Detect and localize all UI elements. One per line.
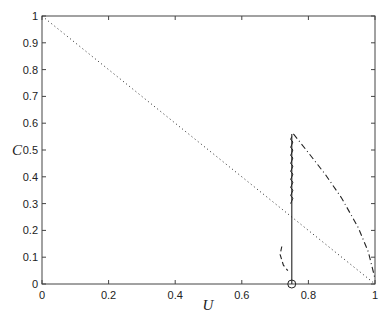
x-tick-label: 0.6 bbox=[234, 289, 249, 301]
y-axis-label: C bbox=[12, 142, 23, 158]
y-tick-label: 0.2 bbox=[23, 224, 38, 236]
y-tick-label: 0.6 bbox=[23, 117, 38, 129]
x-tick-label: 0 bbox=[39, 289, 45, 301]
series-dash-dot-curve bbox=[293, 134, 375, 279]
x-axis-label: U bbox=[203, 297, 215, 313]
y-tick-label: 0.4 bbox=[23, 171, 38, 183]
x-tick-label: 1 bbox=[372, 289, 378, 301]
series-diagonal bbox=[42, 16, 375, 284]
y-axis-ticks: 00.10.20.30.40.50.60.70.80.91 bbox=[23, 10, 375, 290]
series-short-dashed-curve bbox=[280, 247, 288, 271]
y-tick-label: 0.1 bbox=[23, 251, 38, 263]
x-tick-label: 0.8 bbox=[301, 289, 316, 301]
y-tick-label: 0.3 bbox=[23, 198, 38, 210]
y-tick-label: 0 bbox=[32, 278, 38, 290]
x-axis-ticks: 00.20.40.60.81 bbox=[39, 16, 378, 301]
y-tick-label: 1 bbox=[32, 10, 38, 22]
y-tick-label: 0.7 bbox=[23, 90, 38, 102]
chart: 00.20.40.60.81 00.10.20.30.40.50.60.70.8… bbox=[0, 0, 388, 322]
series-layer bbox=[42, 16, 375, 288]
x-tick-label: 0.2 bbox=[101, 289, 116, 301]
y-tick-label: 0.8 bbox=[23, 64, 38, 76]
y-tick-label: 0.5 bbox=[23, 144, 38, 156]
x-tick-label: 0.4 bbox=[168, 289, 183, 301]
y-tick-label: 0.9 bbox=[23, 37, 38, 49]
